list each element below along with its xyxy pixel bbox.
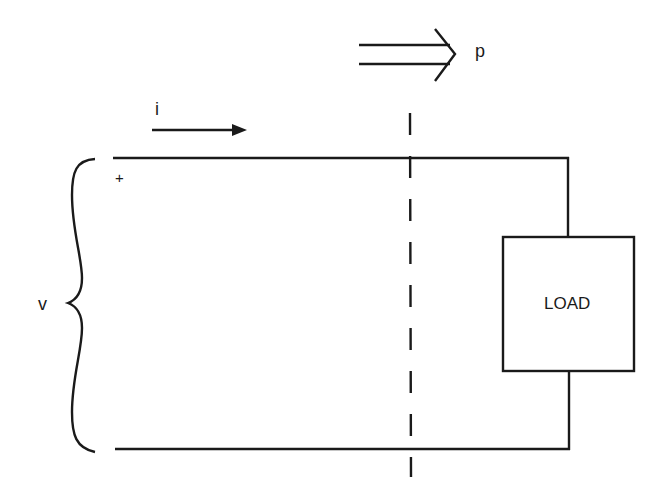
load-label: LOAD	[544, 295, 590, 312]
power-flow-arrow-icon	[359, 29, 455, 81]
power-label: p	[475, 42, 485, 60]
voltage-label: v	[38, 295, 47, 313]
voltage-brace-icon	[68, 159, 95, 452]
current-label: i	[155, 100, 159, 118]
dashed-boundary-line	[410, 113, 411, 477]
circuit-diagram	[0, 0, 668, 496]
polarity-plus-label: +	[115, 170, 124, 185]
current-arrow-icon	[152, 124, 247, 136]
